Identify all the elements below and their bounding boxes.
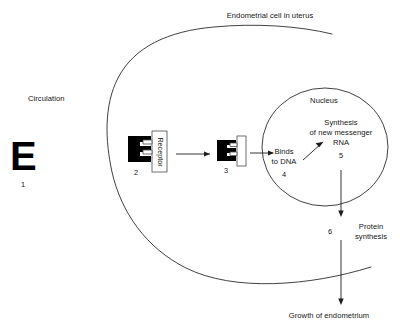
arrow-dna-to-mrna bbox=[303, 142, 324, 160]
step-number-5: 5 bbox=[339, 151, 343, 160]
mrna-synthesis-line3: RNA bbox=[333, 138, 349, 147]
arrow-protein-to-growth bbox=[338, 240, 343, 305]
figure-canvas: Endometrial cell in uterus Circulation E… bbox=[0, 0, 408, 330]
arrow-step2-to-step3 bbox=[176, 151, 210, 156]
protein-synthesis-line2: synthesis bbox=[355, 232, 387, 241]
growth-of-endometrium-label: Growth of endometrium bbox=[289, 311, 369, 320]
step-number-1: 1 bbox=[21, 180, 25, 189]
circulation-label: Circulation bbox=[28, 94, 64, 103]
protein-synthesis-line1: Protein bbox=[359, 222, 383, 231]
binds-to-dna-line2: to DNA bbox=[272, 157, 297, 166]
mrna-synthesis-line2: of new messenger bbox=[310, 128, 373, 137]
step-number-6: 6 bbox=[328, 227, 332, 236]
diagram-vector-layer bbox=[0, 0, 408, 330]
receptor-prongs2-step3 bbox=[230, 152, 237, 156]
step-number-4: 4 bbox=[282, 170, 286, 179]
receptor-prongs2-step2 bbox=[143, 150, 152, 154]
receptor-prongs-step2 bbox=[143, 140, 152, 144]
estrogen-glyph-step1: E bbox=[10, 136, 36, 176]
nucleus-label: Nucleus bbox=[310, 96, 338, 105]
receptor-label-wrap: Receptor bbox=[152, 131, 167, 172]
binds-to-dna-line1: Binds bbox=[274, 147, 293, 156]
arrow-mrna-to-protein bbox=[338, 170, 343, 217]
receptor-box-step3 bbox=[237, 136, 246, 166]
mrna-synthesis-line1: Synthesis bbox=[324, 118, 357, 127]
estrogen-receptor-complex-step3 bbox=[217, 136, 246, 166]
cell-title-label: Endometrial cell in uterus bbox=[227, 11, 314, 20]
receptor-label: Receptor bbox=[155, 137, 164, 166]
step-number-2: 2 bbox=[134, 168, 138, 177]
receptor-prongs-step3 bbox=[230, 143, 237, 147]
step-number-3: 3 bbox=[224, 166, 228, 175]
